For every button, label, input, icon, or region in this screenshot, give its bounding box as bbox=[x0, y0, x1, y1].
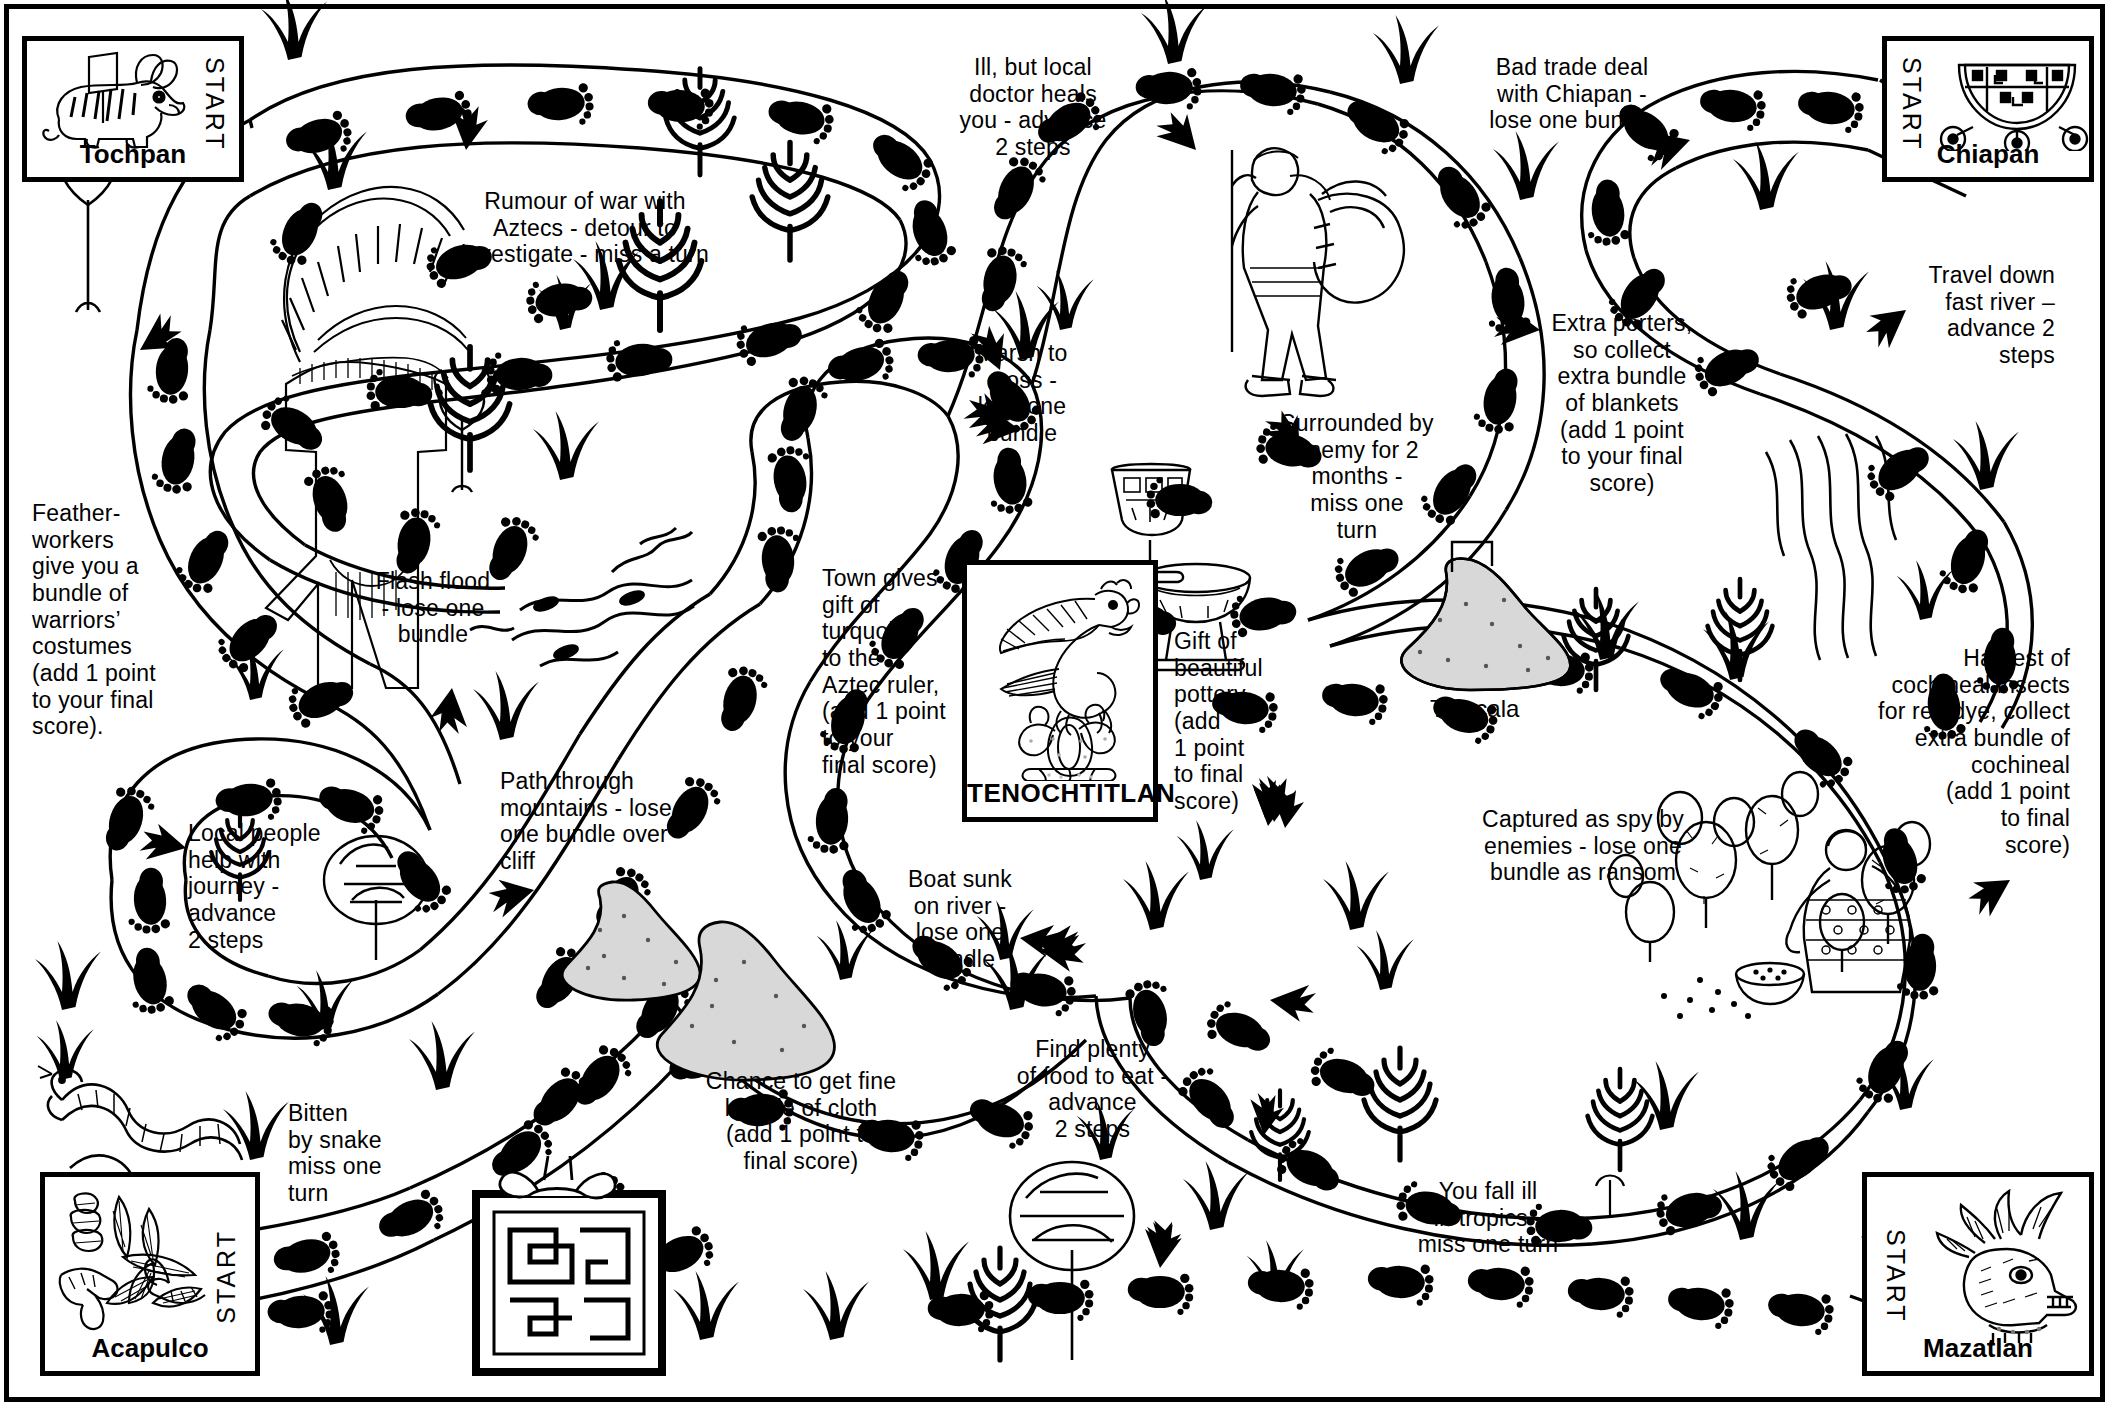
event-note-chance-fine-cloth: Chance to get fine bundle of cloth (add … bbox=[676, 1068, 926, 1175]
city-name-chiapan: Chiapan bbox=[1887, 139, 2089, 170]
event-note-travel-fast-river: Travel down fast river – advance 2 steps bbox=[1840, 262, 2055, 369]
wheeled-shrine-glyph-icon bbox=[1939, 51, 2089, 151]
event-note-marsh-to-cross: Marsh to cross - lose one bundle bbox=[958, 340, 1086, 447]
event-note-gift-of-pottery: Gift of beautiful pottery (add 1 point t… bbox=[1174, 628, 1284, 815]
event-note-local-people-help: Local people help with journey - advance… bbox=[188, 820, 348, 953]
city-name-mazatlan: Mazatlan bbox=[1867, 1333, 2089, 1364]
deer-head-glyph-icon bbox=[1929, 1187, 2089, 1343]
event-note-bitten-by-snake: Bitten by snake miss one turn bbox=[288, 1100, 428, 1207]
event-note-bad-trade-deal: Bad trade deal with Chiapan - lose one b… bbox=[1462, 54, 1682, 134]
start-box-acapulco[interactable]: START bbox=[40, 1172, 260, 1376]
event-note-captured-as-spy: Captured as spy by enemies - lose one bu… bbox=[1458, 806, 1708, 886]
place-label-tlaxcala: Tlaxcala bbox=[1430, 695, 1519, 723]
start-label-mazatlan: START bbox=[1881, 1229, 1910, 1324]
start-label-acapulco: START bbox=[212, 1229, 241, 1324]
event-note-town-gives-gift: Town gives gift of turquoise to the Azte… bbox=[822, 565, 982, 778]
city-name-tochpan: Tochpan bbox=[27, 139, 239, 170]
destination-card-name: TENOCHTITLAN bbox=[967, 778, 1153, 809]
start-label-chiapan: START bbox=[1897, 57, 1926, 152]
event-note-boat-sunk: Boat sunk on river - lose one bundle bbox=[900, 866, 1020, 973]
event-note-surrounded-by-enemy: Surrounded by enemy for 2 months - miss … bbox=[1262, 410, 1452, 543]
event-note-extra-porters: Extra porters, so collect extra bundle o… bbox=[1512, 310, 1732, 497]
event-note-path-through-mountains: Path through mountains - lose one bundle… bbox=[500, 768, 715, 875]
event-note-harvest-cochineal: Harvest of cochineal insects for red dye… bbox=[1830, 645, 2070, 858]
reeds-and-hands-glyph-icon bbox=[53, 1185, 215, 1343]
event-note-fall-ill-tropics: You fall ill in tropics - miss one turn bbox=[1388, 1178, 1588, 1258]
start-label-tochpan: START bbox=[200, 57, 229, 152]
start-box-tochpan[interactable]: START bbox=[22, 36, 244, 182]
destination-card-tenochtitlan[interactable]: TENOCHTITLAN bbox=[962, 560, 1158, 822]
aztec-trade-route-board: START bbox=[0, 0, 2117, 1414]
event-note-find-plenty-food: Find plenty of food to eat - advance 2 s… bbox=[1000, 1036, 1185, 1143]
eagle-on-cactus-icon bbox=[983, 573, 1149, 781]
start-box-mazatlan[interactable]: START bbox=[1862, 1172, 2094, 1376]
event-note-rumour-of-war: Rumour of war with Aztecs - detour to in… bbox=[440, 188, 730, 268]
start-box-chiapan[interactable]: START Chiapan bbox=[1882, 36, 2094, 182]
event-note-feather-workers: Feather- workers give you a bundle of wa… bbox=[32, 500, 182, 740]
event-note-ill-local-doctor: Ill, but local doctor heals you - advanc… bbox=[918, 54, 1148, 161]
city-name-acapulco: Acapulco bbox=[45, 1333, 255, 1364]
event-note-flash-flood: Flash flood - lose one bundle bbox=[348, 568, 518, 648]
